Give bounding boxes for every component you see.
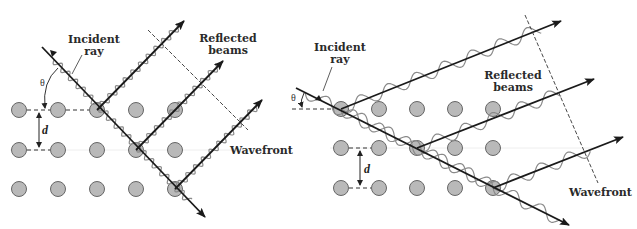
atom: [168, 143, 183, 158]
atom: [129, 103, 144, 118]
left-incident-ray-label: Incident ray: [64, 34, 124, 58]
atom: [448, 181, 463, 196]
right-d-symbol: d: [364, 162, 370, 177]
atom: [448, 141, 463, 156]
atom: [12, 143, 27, 158]
atom: [51, 143, 66, 158]
left-reflected-beam-2: [136, 61, 223, 150]
right-wavefront-label: Wavefront: [569, 187, 637, 199]
left-theta-symbol: θ: [40, 77, 45, 88]
atom: [334, 141, 349, 156]
atom: [486, 141, 501, 156]
right-theta-arc: [301, 93, 304, 107]
right-incident-ray: [296, 88, 569, 225]
right-theta-symbol: θ: [291, 92, 296, 103]
atom: [410, 181, 425, 196]
atom: [372, 141, 387, 156]
left-incident-ray: [42, 47, 205, 217]
right-reflected-beams-label: Reflected beams: [480, 70, 546, 94]
atom: [410, 102, 425, 117]
atom: [12, 182, 27, 197]
atom: [51, 103, 66, 118]
left-reflected-beams-label: Reflected beams: [195, 33, 261, 57]
right-incident-leader: [323, 67, 332, 91]
atom: [12, 103, 27, 118]
left-theta-arc: [45, 68, 58, 108]
atom: [448, 102, 463, 117]
atom: [334, 181, 349, 196]
atom: [372, 102, 387, 117]
atom: [372, 181, 387, 196]
right-incident-ray-label: Incident ray: [310, 42, 370, 66]
atom: [129, 182, 144, 197]
right-reflected-beam-1: [341, 21, 561, 109]
right-reflected-beam-3: [493, 137, 623, 188]
atom: [51, 182, 66, 197]
atom: [90, 182, 105, 197]
left-d-symbol: d: [42, 123, 48, 138]
left-wavefront-label: Wavefront: [230, 145, 300, 157]
atom: [90, 143, 105, 158]
